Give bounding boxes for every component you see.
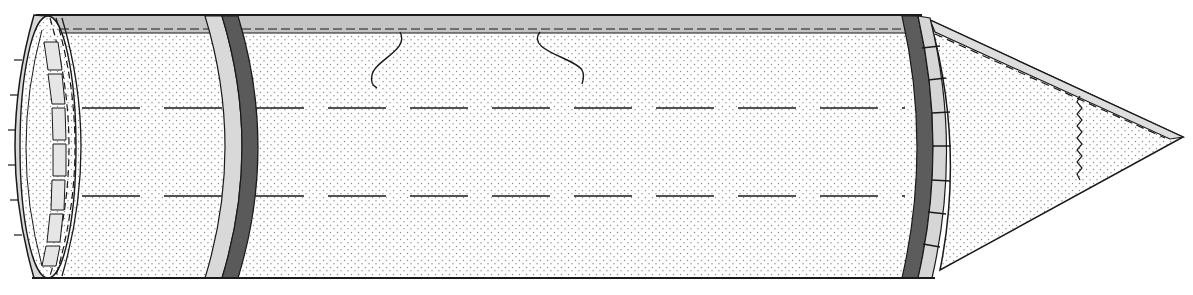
cylinder-body bbox=[28, 15, 951, 278]
pencil-body-drawing bbox=[0, 0, 1193, 295]
cone-tip bbox=[930, 20, 1183, 270]
